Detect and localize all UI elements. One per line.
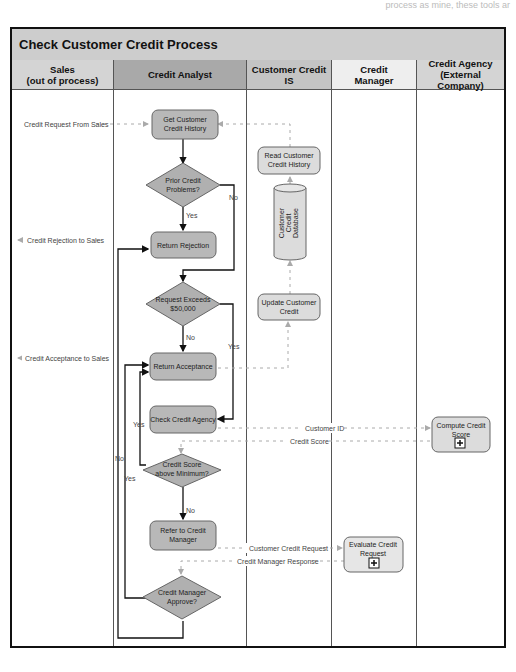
task-label: Return Acceptance (153, 363, 212, 371)
database-label-3: Database (292, 208, 299, 238)
label-no-manager: No (115, 455, 124, 462)
task-label: Read CustomerCredit History (264, 152, 314, 169)
decision-prior-credit-problems[interactable]: Prior CreditProblems? (146, 163, 220, 207)
message-customer-id: Customer ID (305, 425, 344, 432)
task-label: Check Credit Agency (150, 416, 216, 424)
decision-request-exceeds[interactable]: Request Exceeds$50,000 (146, 282, 220, 326)
label-no-score: No (186, 507, 195, 514)
task-label: Get CustomerCredit History (163, 116, 207, 133)
task-return-rejection[interactable]: Return Rejection (151, 232, 216, 258)
decision-credit-manager-approve[interactable]: Credit ManagerApprove? (143, 576, 221, 619)
subprocess-compute-credit-score[interactable]: Compute CreditScore (432, 417, 490, 452)
task-update-customer-credit[interactable]: Update CustomerCredit (258, 294, 320, 320)
message-credit-acceptance: Credit Acceptance to Sales (25, 355, 110, 363)
label-yes-score: Yes (133, 421, 145, 428)
message-credit-rejection: Credit Rejection to Sales (27, 237, 105, 245)
flow-layer: Credit Request From Sales Credit Rejecti… (0, 0, 516, 672)
database-label-2: Credit (285, 214, 292, 233)
label-yes-exceeds: Yes (228, 343, 240, 350)
task-label: Return Rejection (157, 242, 209, 250)
message-credit-request: Credit Request From Sales (24, 121, 109, 129)
database-label-1: Customer (278, 207, 285, 238)
sequence-flows (118, 139, 234, 638)
task-return-acceptance[interactable]: Return Acceptance (150, 353, 216, 380)
database-customer-credit[interactable]: Customer Credit Database (274, 184, 306, 260)
message-credit-score: Credit Score (290, 438, 329, 445)
label-yes-prior: Yes (186, 212, 198, 219)
message-credit-manager-response: Credit Manager Response (237, 558, 319, 566)
task-read-customer-credit-history[interactable]: Read CustomerCredit History (258, 147, 320, 174)
label-yes-manager: Yes (124, 475, 136, 482)
decision-credit-score-minimum[interactable]: Credit Scoreabove Minimum? (143, 454, 221, 487)
message-flows (18, 124, 430, 574)
decision-label: Prior CreditProblems? (165, 177, 200, 193)
label-no-prior: No (229, 194, 238, 201)
task-check-credit-agency[interactable]: Check Credit Agency (150, 406, 216, 433)
task-get-customer-credit-history[interactable]: Get CustomerCredit History (152, 110, 218, 139)
subprocess-evaluate-credit-request[interactable]: Evaluate CreditRequest (344, 537, 403, 572)
decision-label: Credit Scoreabove Minimum? (155, 461, 208, 477)
label-no-exceeds: No (186, 334, 195, 341)
task-refer-to-credit-manager[interactable]: Refer to CreditManager (150, 521, 216, 550)
message-customer-credit-request: Customer Credit Request (249, 545, 328, 553)
